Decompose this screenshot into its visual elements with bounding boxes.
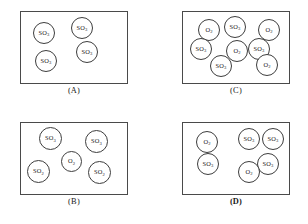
molecule-o2: O2 [256, 54, 278, 76]
molecule-subscript: 3 [224, 65, 226, 70]
molecule-so3: SO3 [85, 130, 108, 153]
molecule-formula: SO3 [82, 49, 93, 56]
panel-d: O2SO3SO3SO3SO3O2 [182, 122, 290, 195]
molecule-formula: O2 [203, 139, 210, 146]
molecule-subscript: 3 [53, 137, 55, 142]
molecule-formula: O2 [245, 169, 252, 176]
molecule-formula: SO3 [39, 30, 50, 37]
molecule-formula: O2 [205, 27, 212, 34]
molecule-subscript: 2 [210, 29, 212, 34]
molecule-subscript: 3 [85, 27, 87, 32]
molecule-subscript: 2 [270, 29, 272, 34]
panel-b: SO3SO3O2SO2SO2 [20, 122, 128, 195]
molecule-formula: SO3 [41, 58, 52, 65]
molecule-subscript: 3 [90, 51, 92, 56]
molecule-formula: SO3 [254, 46, 265, 53]
molecule-so2: SO2 [88, 161, 111, 184]
molecule-subscript: 3 [49, 60, 51, 65]
panel-caption: (B) [20, 197, 128, 206]
panel-caption: (A) [20, 86, 128, 95]
molecule-formula: SO3 [45, 135, 56, 142]
molecule-so3: SO3 [35, 50, 57, 72]
molecule-formula: SO3 [216, 63, 227, 70]
particle-diagram-figure: SO3SO3SO3SO3(A)O2SO3O2SO3O2SO3SO3O2(C)SO… [0, 0, 308, 224]
molecule-subscript: 2 [73, 160, 75, 165]
molecule-formula: SO3 [268, 136, 279, 143]
molecule-so3: SO3 [197, 153, 219, 175]
panel-caption: (D) [182, 197, 290, 206]
molecule-o2: O2 [61, 151, 82, 172]
molecule-formula: SO2 [33, 168, 44, 175]
molecule-formula: O2 [263, 62, 270, 69]
molecule-subscript: 3 [47, 32, 49, 37]
molecule-formula: SO3 [244, 136, 255, 143]
molecule-so3: SO3 [262, 128, 284, 150]
molecule-so3: SO3 [210, 55, 232, 77]
molecule-so3: SO3 [224, 16, 246, 38]
molecule-formula: SO2 [94, 169, 105, 176]
molecule-formula: SO3 [77, 25, 88, 32]
molecule-subscript: 2 [238, 50, 240, 55]
molecule-subscript: 3 [99, 140, 101, 145]
molecule-so3: SO3 [71, 17, 93, 39]
molecule-formula: O2 [265, 27, 272, 34]
molecule-subscript: 2 [41, 170, 43, 175]
panel-c: O2SO3O2SO3O2SO3SO3O2 [182, 11, 290, 84]
molecule-formula: SO3 [196, 46, 207, 53]
molecule-formula: SO3 [230, 24, 241, 31]
molecule-so2: SO2 [27, 160, 50, 183]
molecule-subscript: 3 [204, 48, 206, 53]
molecule-subscript: 2 [250, 171, 252, 176]
molecule-subscript: 3 [276, 138, 278, 143]
molecule-subscript: 2 [268, 64, 270, 69]
molecule-so3: SO3 [257, 153, 279, 175]
molecule-subscript: 2 [208, 141, 210, 146]
molecule-subscript: 3 [262, 48, 264, 53]
molecule-so3: SO3 [33, 22, 55, 44]
molecule-so3: SO3 [76, 41, 98, 63]
molecule-subscript: 3 [238, 26, 240, 31]
molecule-subscript: 3 [252, 138, 254, 143]
molecule-subscript: 3 [211, 163, 213, 168]
molecule-so3: SO3 [39, 127, 62, 150]
molecule-formula: O2 [233, 48, 240, 55]
molecule-o2: O2 [238, 161, 260, 183]
panel-caption: (C) [182, 86, 290, 95]
molecule-formula: SO3 [263, 161, 274, 168]
molecule-formula: SO3 [91, 138, 102, 145]
molecule-so3: SO3 [190, 38, 212, 60]
molecule-formula: O2 [68, 158, 75, 165]
molecule-subscript: 3 [271, 163, 273, 168]
molecule-subscript: 2 [102, 171, 104, 176]
panel-a: SO3SO3SO3SO3 [20, 11, 128, 84]
molecule-o2: O2 [196, 131, 218, 153]
molecule-so3: SO3 [238, 128, 260, 150]
molecule-formula: SO3 [203, 161, 214, 168]
